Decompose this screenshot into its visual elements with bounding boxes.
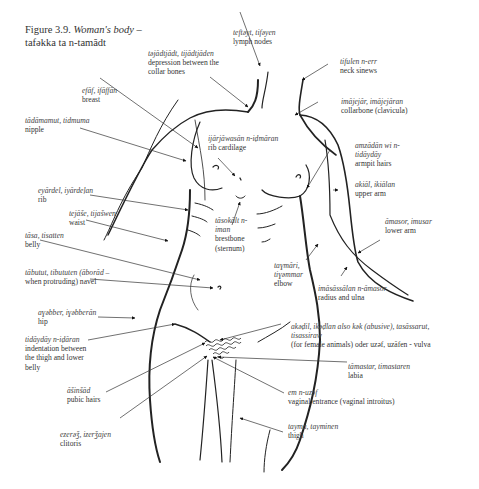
label-labia: tămastar, timastaren labia (348, 362, 410, 380)
term: teftəyt, tifəyen (233, 28, 276, 37)
gloss: upper arm (355, 189, 395, 198)
gloss: (for female animals) oder uzəf, uzăfen -… (291, 340, 457, 349)
term: imăjejăr, imăjejăran (341, 97, 407, 106)
term: tădămamut, tidmuma (25, 116, 90, 125)
term: ămasor, imusar (385, 217, 432, 226)
gloss: when protruding) navel (25, 277, 123, 286)
gloss: nipple (25, 125, 90, 134)
term: amzădăn wi n-tidăydăy (355, 141, 411, 159)
term: taɣmări, tiɣəmmar (274, 261, 310, 279)
term: tifulen n-err (340, 57, 377, 66)
gloss: lymph nodes (233, 37, 276, 46)
label-collarbone: imăjejăr, imăjejăran collarbone (clavicu… (341, 97, 407, 115)
term: efăf, ifăffăn (82, 86, 117, 95)
term: imăsăssălan n-ămasor (318, 284, 387, 293)
gloss: elbow (274, 279, 310, 288)
label-breast: efăf, ifăffăn breast (82, 86, 117, 104)
gloss: vaginal entrance (vaginal introitus) (288, 397, 394, 406)
gloss: rib (38, 195, 93, 204)
gloss: collarbone (clavicula) (341, 106, 407, 115)
gloss: waist (69, 218, 116, 227)
figure-title-english: Woman's body – (73, 24, 141, 35)
label-pubic-hairs: ăšinšăd pubic hairs (67, 386, 101, 404)
figure-title: Figure 3.9. Woman's body – tafəkka ta n-… (25, 24, 142, 49)
term: em n-uzəf (288, 388, 394, 397)
label-navel: tăbutut, tibututen (ăborăd – when protru… (25, 268, 123, 286)
term: akəḍil, ikəḍlan also kǝk (abusive), tasă… (291, 322, 457, 340)
term: təjădtjădt, tijădtjăden (148, 49, 230, 58)
term: ijărjăwasăn n-iḍmăran (208, 134, 278, 143)
gloss: thigh (288, 431, 338, 440)
gloss: radius and ulna (318, 293, 387, 302)
label-clitoris: ezerǝǯ, izerǯajen clitoris (60, 430, 111, 448)
gloss: lower arm (385, 226, 432, 235)
label-vaginal-entrance: em n-uzəf vaginal entrance (vaginal intr… (288, 388, 394, 406)
figure-title-tamasheq: tafəkka ta n-tamădt (25, 37, 106, 48)
gloss: rib cardilage (208, 143, 278, 152)
term: ăšinšăd (67, 386, 101, 395)
gloss: neck sinews (340, 66, 377, 75)
label-lymph-nodes: teftəyt, tifəyen lymph nodes (233, 28, 276, 46)
label-thigh: tayma, tayminen thigh (288, 422, 338, 440)
label-elbow: taɣmări, tiɣəmmar elbow (274, 261, 310, 289)
figure-number: Figure 3.9. (25, 24, 71, 35)
gloss: breast (82, 95, 117, 104)
gloss: depression between the collar bones (148, 58, 230, 76)
label-belly: tăsa, tisatten belly (25, 231, 64, 249)
gloss: clitoris (60, 439, 111, 448)
gloss: indentation between the thigh and lower … (25, 344, 95, 372)
label-lower-arm: ămasor, imusar lower arm (385, 217, 432, 235)
gloss: labia (348, 371, 410, 380)
term: tayma, tayminen (288, 422, 338, 431)
term: tejăše, tijašwen (69, 209, 116, 218)
gloss: brestbone (sternum) (215, 234, 251, 252)
label-sternum: tăsokălt n-iman brestbone (sternum) (215, 216, 251, 253)
term: eyărdel, iyărdeḷan (38, 186, 93, 195)
label-waist: tejăše, tijašwen waist (69, 209, 116, 227)
label-hip: aɣəbber, iɣəbberăn hip (38, 308, 96, 326)
gloss: armpit hairs (355, 159, 411, 168)
term: tămastar, timastaren (348, 362, 410, 371)
label-armpit-hairs: amzădăn wi n-tidăydăy armpit hairs (355, 141, 411, 169)
term: aɣəbber, iɣəbberăn (38, 308, 96, 317)
gloss: hip (38, 317, 96, 326)
label-collar-depression: təjădtjădt, tijădtjăden depression betwe… (148, 49, 230, 77)
label-neck-sinews: tifulen n-err neck sinews (340, 57, 377, 75)
term: tidăydăy n-iḍăran (25, 335, 95, 344)
gloss: belly (25, 240, 64, 249)
label-indentation: tidăydăy n-iḍăran indentation between th… (25, 335, 95, 372)
label-vulva: akəḍil, ikəḍlan also kǝk (abusive), tasă… (291, 322, 457, 350)
gloss: pubic hairs (67, 395, 101, 404)
term: akiăl, ikiălan (355, 180, 395, 189)
label-radius-ulna: imăsăssălan n-ămasor radius and ulna (318, 284, 387, 302)
label-rib-cartilage: ijărjăwasăn n-iḍmăran rib cardilage (208, 134, 278, 152)
label-rib: eyărdel, iyărdeḷan rib (38, 186, 93, 204)
term: tăbutut, tibututen (ăborăd – (25, 268, 123, 277)
label-upper-arm: akiăl, ikiălan upper arm (355, 180, 395, 198)
term: tăsa, tisatten (25, 231, 64, 240)
term: ezerǝǯ, izerǯajen (60, 430, 111, 439)
label-nipple: tădămamut, tidmuma nipple (25, 116, 90, 134)
term: tăsokălt n-iman (215, 216, 251, 234)
